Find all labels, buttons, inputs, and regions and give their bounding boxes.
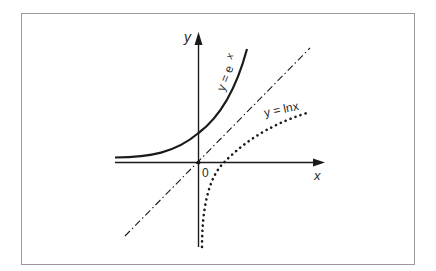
x-axis-label: x bbox=[313, 168, 321, 183]
y-axis-arrow-icon bbox=[195, 32, 203, 45]
diagram-canvas: y x 0 y = e x y = lnx bbox=[0, 0, 436, 271]
x-axis-arrow-icon bbox=[313, 159, 325, 167]
exponential-label: y = e x bbox=[211, 51, 241, 94]
origin-label: 0 bbox=[202, 166, 209, 180]
y-axis bbox=[195, 32, 203, 247]
figure-frame bbox=[22, 14, 415, 265]
y-axis-label: y bbox=[183, 29, 192, 45]
logarithm-curve bbox=[202, 113, 307, 247]
svg-text:x: x bbox=[223, 51, 236, 62]
